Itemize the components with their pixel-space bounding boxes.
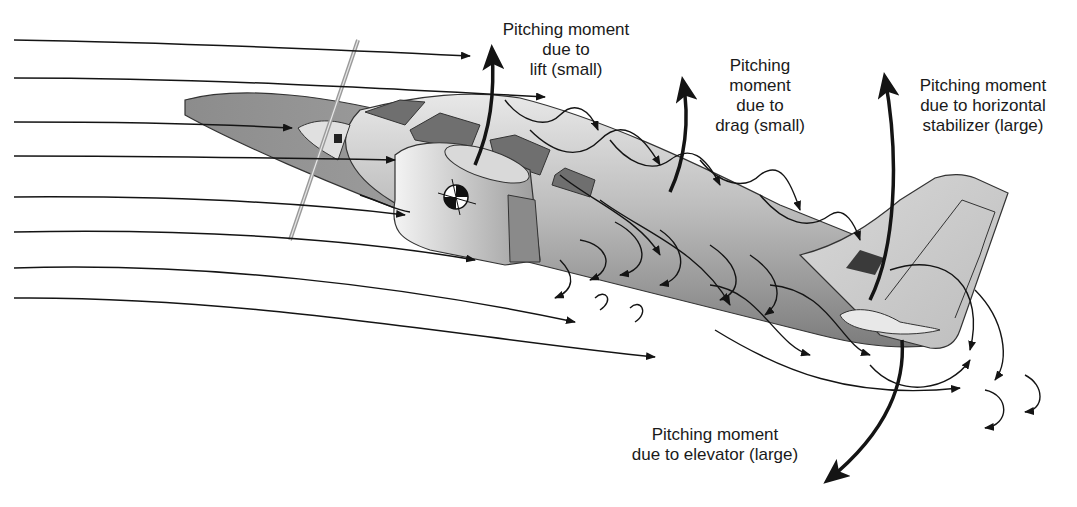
elevator-moment-arrow — [828, 340, 902, 480]
label-drag-moment: Pitching moment due to drag (small) — [700, 56, 820, 136]
label-lift-moment: Pitching moment due to lift (small) — [476, 20, 656, 80]
label-elevator-moment: Pitching moment due to elevator (large) — [605, 425, 825, 465]
pitching-moment-diagram: Pitching moment due to lift (small) Pitc… — [0, 0, 1077, 507]
label-stabilizer-moment: Pitching moment due to horizontal stabil… — [898, 76, 1068, 136]
nacelle-panel — [508, 195, 540, 262]
spinner-mark — [334, 134, 342, 143]
